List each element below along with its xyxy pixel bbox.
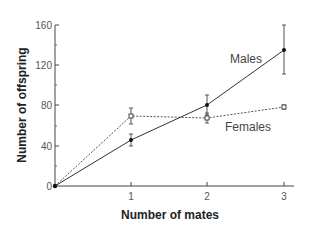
series-males (53, 25, 286, 188)
series-females (55, 105, 286, 186)
male-marker (129, 138, 133, 142)
x-tick-1: 1 (128, 191, 134, 202)
male-marker (205, 103, 209, 107)
x-tick-3: 3 (281, 191, 287, 202)
x-ticks (131, 182, 284, 186)
chart: 160 120 80 40 0 1 2 3 Number of mates Nu… (0, 0, 315, 227)
female-marker (129, 114, 133, 118)
y-axis-label: Number of offspring (15, 47, 29, 162)
female-marker (205, 116, 209, 120)
origin-marker (53, 184, 57, 188)
y-tick-80: 80 (41, 100, 53, 111)
x-axis-label: Number of mates (121, 208, 219, 222)
female-marker (282, 105, 286, 109)
x-tick-2: 2 (204, 191, 210, 202)
male-marker (282, 48, 286, 52)
males-label: Males (230, 52, 262, 66)
y-tick-40: 40 (41, 141, 53, 152)
females-label: Females (225, 120, 271, 134)
y-tick-0: 0 (46, 181, 52, 192)
y-tick-120: 120 (35, 60, 52, 71)
y-tick-160: 160 (35, 20, 52, 31)
